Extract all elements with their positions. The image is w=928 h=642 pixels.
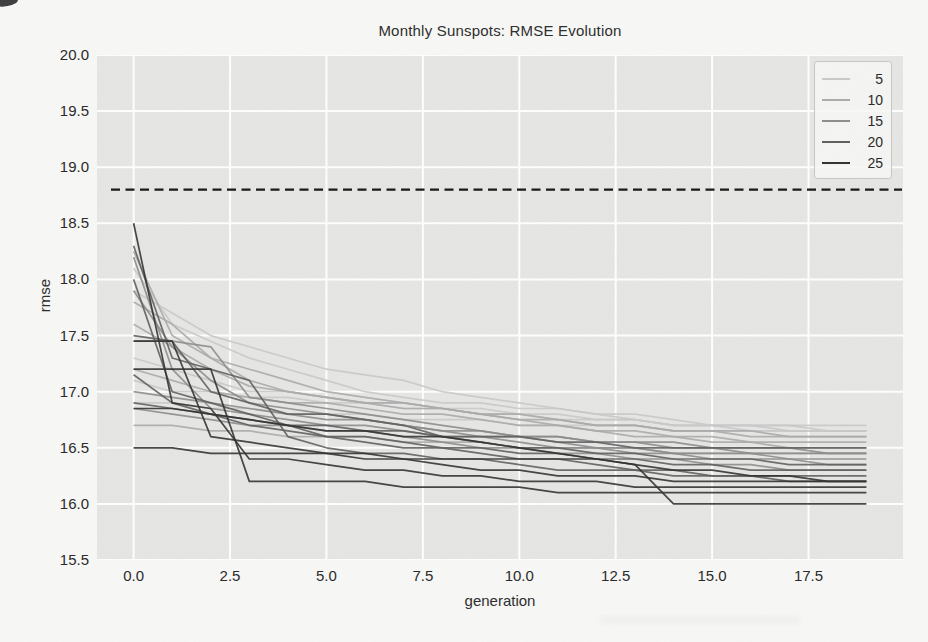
legend: 510152025	[814, 61, 892, 179]
legend-item-label: 10	[858, 92, 883, 108]
legend-item: 10	[822, 89, 883, 110]
legend-item: 5	[822, 68, 883, 89]
legend-item: 15	[822, 110, 883, 131]
scanned-figure-page: Monthly Sunspots: RMSE Evolution rmse ge…	[0, 0, 928, 642]
x-tick-label: 15.0	[690, 568, 734, 584]
x-tick-label: 10.0	[497, 568, 541, 584]
legend-item-label: 5	[858, 71, 883, 87]
y-tick-label: 16.5	[45, 440, 89, 456]
legend-line-swatch	[822, 141, 850, 143]
y-tick-label: 19.5	[45, 103, 89, 119]
y-tick-label: 17.5	[45, 328, 89, 344]
x-tick-label: 0.0	[112, 568, 156, 584]
legend-line-swatch	[822, 120, 850, 122]
plot-background	[97, 55, 903, 560]
x-axis-label: generation	[97, 592, 903, 609]
y-tick-label: 16.0	[45, 496, 89, 512]
legend-line-swatch	[822, 162, 850, 164]
legend-item-label: 25	[858, 155, 883, 171]
y-tick-label: 18.5	[45, 215, 89, 231]
chart-title: Monthly Sunspots: RMSE Evolution	[97, 22, 903, 39]
legend-item: 25	[822, 152, 883, 173]
legend-item-label: 20	[858, 134, 883, 150]
x-tick-label: 7.5	[401, 568, 445, 584]
legend-item-label: 15	[858, 113, 883, 129]
x-tick-label: 2.5	[208, 568, 252, 584]
x-tick-label: 17.5	[787, 568, 831, 584]
y-tick-label: 15.5	[45, 552, 89, 568]
scan-bleed-artifact	[600, 616, 800, 624]
plot-area	[97, 55, 903, 560]
y-tick-label: 19.0	[45, 159, 89, 175]
x-tick-label: 12.5	[594, 568, 638, 584]
x-tick-label: 5.0	[304, 568, 348, 584]
legend-line-swatch	[822, 78, 850, 80]
legend-item: 20	[822, 131, 883, 152]
scan-artifact-corner	[0, 0, 19, 7]
y-tick-label: 20.0	[45, 47, 89, 63]
y-tick-label: 18.0	[45, 271, 89, 287]
y-tick-label: 17.0	[45, 384, 89, 400]
legend-line-swatch	[822, 99, 850, 101]
